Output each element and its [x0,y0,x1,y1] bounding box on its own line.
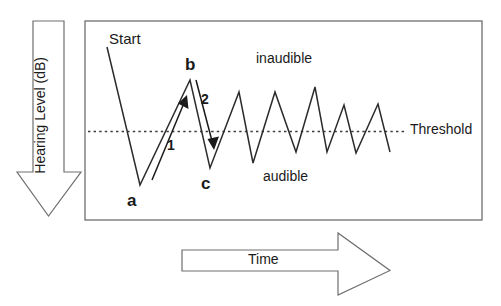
step-arrow-1-label: 1 [167,138,175,152]
hearing-level-arrow-shape [17,21,81,216]
y-axis-label: Hearing Level (dB) [33,57,47,174]
time-arrow-shape [182,233,390,295]
threshold-label: Threshold [410,122,472,136]
point-label-a: a [127,192,136,209]
region-label-inaudible: inaudible [256,51,312,65]
region-label-audible: audible [263,169,308,183]
start-label: Start [109,31,141,46]
point-label-b: b [185,56,195,73]
figure-canvas: Hearing Level (dB) Start b a c 1 2 inaud… [0,0,501,306]
step-arrow-2-label: 2 [201,92,209,106]
point-label-c: c [201,175,210,192]
x-axis-label: Time [248,252,279,266]
